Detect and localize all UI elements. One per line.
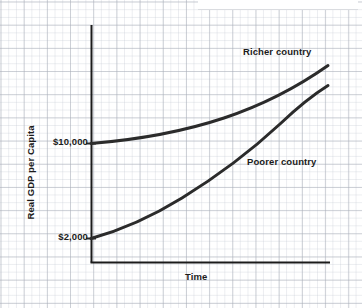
chart-canvas: Richer country Poorer country $10,000 $2… — [0, 0, 362, 308]
series-line-richer-country — [91, 66, 328, 144]
x-axis-title: Time — [185, 271, 207, 282]
series-label-richer-country: Richer country — [243, 46, 311, 57]
series-label-poorer-country: Poorer country — [247, 156, 317, 167]
y-axis-tick-label-low: $2,000 — [47, 231, 88, 242]
y-axis-title: Real GDP per Capita — [25, 118, 36, 228]
y-axis-tick-label-high: $10,000 — [47, 136, 88, 147]
